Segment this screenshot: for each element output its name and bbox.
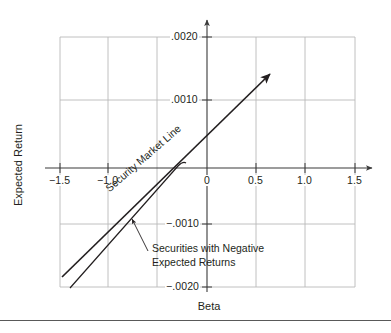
x-tick-label-10: 1.0 xyxy=(296,175,313,186)
x-tick-label-0: 0 xyxy=(203,175,211,186)
annotation-line-2: Expected Returns xyxy=(152,256,264,270)
security-market-line-figure: .0020 .0010 −.0010 −.0020 −1.5 −1.0 0 0.… xyxy=(0,0,391,333)
y-tick-label-0010: .0010 xyxy=(170,94,199,105)
x-tick-label-05: 0.5 xyxy=(247,175,264,186)
negative-returns-annotation: Securities with Negative Expected Return… xyxy=(152,242,264,269)
x-axis-title: Beta xyxy=(198,300,221,312)
y-tick-label-neg0010: −.0010 xyxy=(165,218,200,229)
bottom-divider-rule xyxy=(0,320,391,321)
y-axis-title: Expected Return xyxy=(12,124,24,206)
x-tick-label-neg15: −1.5 xyxy=(48,175,71,186)
y-tick-label-0020: .0020 xyxy=(170,31,199,42)
y-tick-label-neg0020: −.0020 xyxy=(165,281,200,292)
annotation-line-1: Securities with Negative xyxy=(152,242,264,256)
x-tick-label-15: 1.5 xyxy=(346,175,363,186)
